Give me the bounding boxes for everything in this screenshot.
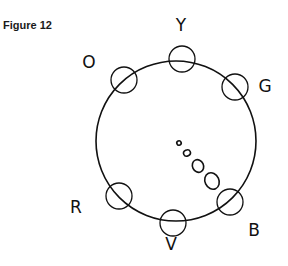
marker-label-o: O bbox=[82, 52, 95, 72]
trail-ellipse-3 bbox=[190, 158, 205, 174]
ellipse-trail bbox=[176, 140, 222, 192]
marker-circle-y bbox=[169, 46, 195, 72]
trail-ellipse-4 bbox=[202, 170, 222, 191]
trail-ellipse-2 bbox=[183, 149, 192, 157]
marker-label-g: G bbox=[258, 76, 271, 96]
marker-circle-b bbox=[217, 189, 243, 215]
main-circle bbox=[96, 61, 256, 221]
marker-label-b: B bbox=[248, 220, 260, 240]
marker-label-r: R bbox=[70, 197, 82, 217]
marker-label-y: Y bbox=[175, 15, 187, 35]
marker-group: YGORVB bbox=[70, 15, 272, 254]
marker-circle-v bbox=[160, 210, 186, 236]
trail-ellipse-1 bbox=[176, 140, 182, 146]
marker-label-v: V bbox=[165, 234, 177, 254]
circle-diagram: YGORVB bbox=[0, 0, 288, 266]
